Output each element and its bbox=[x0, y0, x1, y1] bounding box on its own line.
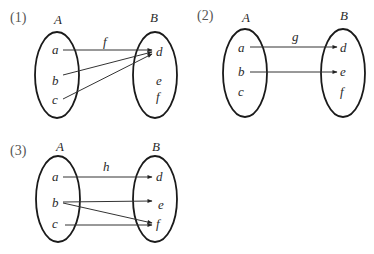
arrow-c-to-d bbox=[63, 54, 152, 99]
diagram-number: (1) bbox=[10, 10, 27, 26]
element-c: c bbox=[52, 92, 58, 107]
map-label: h bbox=[103, 159, 110, 174]
set-b-label: B bbox=[152, 139, 160, 154]
element-e: e bbox=[158, 197, 164, 212]
set-a-ellipse bbox=[223, 29, 267, 117]
element-f: f bbox=[340, 84, 346, 99]
element-a: a bbox=[238, 40, 245, 55]
set-b-ellipse bbox=[133, 156, 177, 242]
set-a-label: A bbox=[241, 10, 250, 25]
arrow-b-to-e bbox=[63, 201, 152, 202]
diagram-2: (2) A B a b c d e f g bbox=[197, 8, 365, 117]
element-c: c bbox=[52, 216, 58, 231]
element-d: d bbox=[156, 44, 163, 59]
element-e: e bbox=[156, 73, 162, 88]
map-label: f bbox=[103, 34, 109, 49]
set-a-label: A bbox=[53, 12, 62, 27]
set-b-label: B bbox=[150, 10, 158, 25]
element-a: a bbox=[52, 42, 59, 57]
element-b: b bbox=[238, 64, 245, 79]
mapping-diagrams: (1) A B a b c d e f f (2) A B a b c d e … bbox=[0, 0, 374, 254]
set-b-ellipse bbox=[133, 32, 177, 118]
map-label: g bbox=[292, 29, 299, 44]
diagram-number: (2) bbox=[197, 8, 214, 24]
diagram-1: (1) A B a b c d e f f bbox=[10, 10, 177, 118]
set-a-label: A bbox=[55, 139, 64, 154]
diagram-number: (3) bbox=[10, 143, 27, 159]
set-b-label: B bbox=[340, 8, 348, 23]
element-f: f bbox=[156, 216, 162, 231]
diagram-3: (3) A B a b c d e f h bbox=[10, 139, 177, 242]
element-d: d bbox=[156, 169, 163, 184]
element-a: a bbox=[52, 169, 59, 184]
element-d: d bbox=[340, 40, 347, 55]
element-c: c bbox=[238, 84, 244, 99]
element-f: f bbox=[156, 89, 162, 104]
element-b: b bbox=[52, 73, 59, 88]
element-e: e bbox=[340, 64, 346, 79]
element-b: b bbox=[52, 195, 59, 210]
